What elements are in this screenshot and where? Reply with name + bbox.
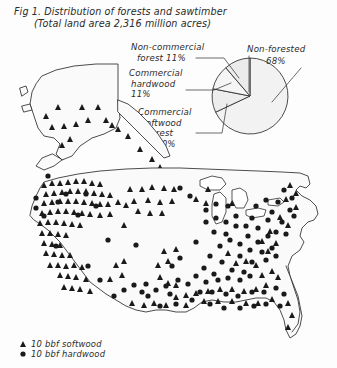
pie-label-commercial-hardwood-line-2: hardwood — [131, 79, 176, 89]
pie-label-commercial-hardwood-line-3: 11% — [131, 89, 151, 99]
legend: 10 bbf softwood 10 bbf hardwood — [20, 339, 106, 359]
lake-erie — [246, 208, 266, 218]
pie-label-non-forested-line-2: 68% — [266, 56, 286, 66]
alaska-island-a — [20, 86, 28, 96]
figure-distribution-of-forests-and-sawtimber: Fig 1. Distribution of forests and sawti… — [0, 0, 337, 368]
pie-label-commercial-hardwood-line-1: Commercial — [129, 68, 183, 78]
pie-label-non-commercial-forest-line-2: forest 11% — [137, 53, 186, 63]
map-contiguous-us — [30, 168, 318, 338]
alaska-island-b — [22, 104, 32, 112]
pie-label-non-forested-line-1: Non-forested — [247, 44, 306, 54]
triangle-marker-icon — [20, 341, 26, 347]
legend-label-hardwood: 10 bbf hardwood — [31, 349, 106, 359]
alaska-mainland — [30, 64, 120, 160]
pie-label-non-commercial-forest-line-1: Non-commercial — [131, 42, 205, 52]
pie-label-commercial-softwood-line-1: Commercial — [138, 107, 192, 117]
figure-title-line-2: (Total land area 2,316 million acres) — [34, 18, 211, 29]
us-mainland-outline — [30, 168, 318, 338]
legend-label-softwood: 10 bbf softwood — [31, 339, 102, 349]
figure-title-line-1: Fig 1. Distribution of forests and sawti… — [14, 6, 228, 17]
circle-marker-icon — [20, 351, 25, 356]
